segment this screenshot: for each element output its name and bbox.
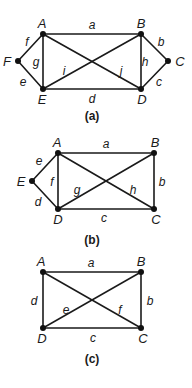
edge-label-a: a: [103, 137, 110, 151]
edge-label-a: a: [88, 256, 95, 270]
vertex-B: [138, 31, 144, 37]
edge-label-f: f: [25, 35, 30, 49]
edge-label-a: a: [89, 18, 96, 32]
edge-label-d: d: [89, 92, 96, 106]
edge-label-c: c: [101, 211, 107, 225]
vertex-A: [40, 269, 46, 275]
edge-label-e: e: [20, 75, 27, 89]
figure-caption: (a): [85, 109, 100, 123]
edge-label-e: e: [63, 303, 70, 317]
graph-diagrams: abcdefghijABCDEF(a) abcdefghABCDE(b) abc…: [0, 0, 192, 388]
vertex-B: [151, 150, 157, 156]
vertex-label-F: F: [3, 54, 12, 69]
figure-c: abcdefABCD(c): [31, 254, 154, 366]
vertex-label-D: D: [53, 212, 62, 227]
vertex-A: [55, 150, 61, 156]
figure-caption: (c): [85, 352, 100, 366]
figure-a: abcdefghijABCDEF(a): [3, 16, 185, 123]
figure-b: abcdefghABCDE(b): [17, 135, 166, 247]
vertex-label-B: B: [137, 16, 146, 31]
vertex-label-C: C: [151, 212, 161, 227]
vertex-label-D: D: [137, 92, 146, 107]
vertex-label-C: C: [138, 331, 148, 346]
edge-label-d: d: [35, 195, 42, 209]
edge-label-g: g: [74, 183, 81, 197]
edge-label-f: f: [50, 175, 55, 189]
vertex-B: [138, 269, 144, 275]
edge-label-f: f: [118, 303, 123, 317]
edge-label-i: i: [63, 64, 66, 78]
edge-label-e: e: [36, 154, 43, 168]
edge-label-c: c: [90, 331, 96, 345]
vertex-label-A: A: [52, 135, 62, 150]
vertex-F: [15, 58, 21, 64]
vertex-label-A: A: [37, 16, 47, 31]
edge-label-h: h: [142, 55, 149, 69]
vertex-label-E: E: [17, 174, 26, 189]
vertex-E: [29, 178, 35, 184]
edge-label-g: g: [33, 55, 40, 69]
vertex-A: [40, 31, 46, 37]
vertex-label-A: A: [36, 254, 46, 269]
edge-label-b: b: [159, 175, 166, 189]
vertex-label-D: D: [37, 331, 46, 346]
vertex-label-B: B: [137, 254, 146, 269]
vertex-label-B: B: [151, 135, 160, 150]
edge-label-b: b: [158, 35, 165, 49]
edge-label-c: c: [156, 75, 162, 89]
vertex-C: [165, 58, 171, 64]
edge-label-b: b: [147, 294, 154, 308]
edge-label-h: h: [130, 183, 137, 197]
figure-caption: (b): [84, 233, 99, 247]
edge-label-d: d: [31, 294, 38, 308]
vertex-label-C: C: [175, 54, 185, 69]
vertex-label-E: E: [38, 92, 47, 107]
